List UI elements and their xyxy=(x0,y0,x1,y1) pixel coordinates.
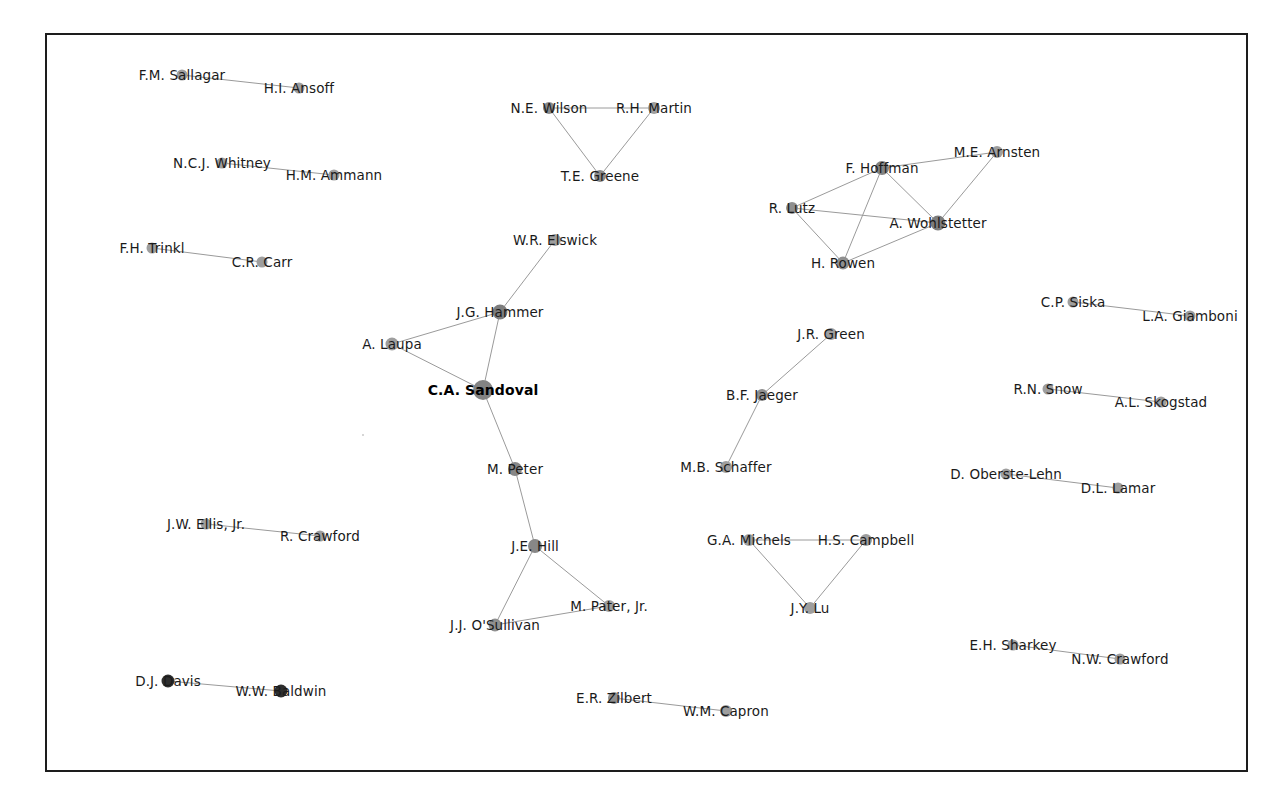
graph-node[interactable] xyxy=(1008,640,1019,651)
graph-edge xyxy=(600,108,654,176)
graph-node[interactable] xyxy=(720,461,732,473)
graph-node[interactable] xyxy=(603,600,615,612)
graph-node[interactable] xyxy=(177,70,188,81)
graph-edge xyxy=(168,681,281,691)
graph-node[interactable] xyxy=(489,619,502,632)
nodes-group xyxy=(147,70,1196,718)
graph-node[interactable] xyxy=(1113,483,1124,494)
graph-edge xyxy=(515,469,535,546)
stray-mark xyxy=(362,434,364,436)
graph-node[interactable] xyxy=(1156,397,1167,408)
graph-node[interactable] xyxy=(720,705,732,717)
graph-node[interactable] xyxy=(1185,311,1196,322)
graph-node[interactable] xyxy=(743,534,755,546)
graph-node[interactable] xyxy=(825,328,837,340)
graph-node[interactable] xyxy=(257,257,268,268)
graph-edge xyxy=(1048,389,1161,402)
graph-edge xyxy=(222,163,334,175)
graph-edge xyxy=(1073,302,1190,316)
graph-edge xyxy=(549,108,600,176)
graph-edge xyxy=(500,240,555,312)
graph-edge xyxy=(810,540,866,608)
graph-edge xyxy=(762,334,831,395)
graph-edge xyxy=(182,75,299,88)
graph-edge xyxy=(392,344,483,390)
graph-node[interactable] xyxy=(508,462,522,476)
graph-node[interactable] xyxy=(1001,469,1012,480)
graph-edge xyxy=(749,540,810,608)
graph-node[interactable] xyxy=(217,158,228,169)
graph-node[interactable] xyxy=(804,602,816,614)
graph-node[interactable] xyxy=(147,243,158,254)
graph-edge xyxy=(938,152,997,223)
graph-node[interactable] xyxy=(1115,654,1126,665)
graph-edge xyxy=(882,152,997,168)
graph-edge xyxy=(882,168,938,223)
graph-edge xyxy=(392,312,500,344)
graph-svg-canvas xyxy=(0,0,1279,809)
graph-node[interactable] xyxy=(837,257,850,270)
graph-node[interactable] xyxy=(528,539,542,553)
graph-node[interactable] xyxy=(201,519,212,530)
graph-node[interactable] xyxy=(549,234,561,246)
graph-edge xyxy=(1006,474,1118,488)
graph-node[interactable] xyxy=(875,161,889,175)
graph-node[interactable] xyxy=(860,534,872,546)
graph-edge xyxy=(483,390,515,469)
graph-node[interactable] xyxy=(594,170,606,182)
network-graph-figure: F.M. SallagarH.I. AnsoffN.C.J. WhitneyH.… xyxy=(0,0,1279,809)
graph-node[interactable] xyxy=(275,685,288,698)
graph-edge xyxy=(483,312,500,390)
graph-node[interactable] xyxy=(329,170,340,181)
graph-node[interactable] xyxy=(991,146,1003,158)
graph-node[interactable] xyxy=(931,216,946,231)
graph-node[interactable] xyxy=(386,338,399,351)
graph-node[interactable] xyxy=(608,692,620,704)
graph-edge xyxy=(206,524,320,536)
edges-group xyxy=(152,75,1190,711)
graph-node[interactable] xyxy=(1043,384,1054,395)
graph-edge xyxy=(152,248,262,262)
graph-node[interactable] xyxy=(493,305,508,320)
graph-edge xyxy=(495,606,609,625)
graph-edge xyxy=(614,698,726,711)
graph-node[interactable] xyxy=(315,531,326,542)
graph-edge xyxy=(495,546,535,625)
graph-node[interactable] xyxy=(543,102,555,114)
graph-node[interactable] xyxy=(756,389,768,401)
graph-edge xyxy=(535,546,609,606)
graph-edge xyxy=(726,395,762,467)
graph-node[interactable] xyxy=(294,83,305,94)
graph-node[interactable] xyxy=(786,202,798,214)
graph-edge xyxy=(1013,645,1120,659)
graph-edge xyxy=(792,208,843,263)
graph-node[interactable] xyxy=(1068,297,1079,308)
graph-node[interactable] xyxy=(648,102,660,114)
graph-node[interactable] xyxy=(162,675,175,688)
graph-node[interactable] xyxy=(473,380,493,400)
